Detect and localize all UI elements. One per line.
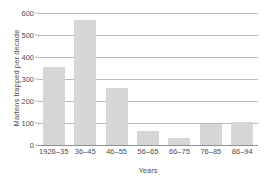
y-tick-label: 600 xyxy=(21,9,34,18)
x-tick-label: 76–85 xyxy=(200,147,221,156)
bar xyxy=(106,88,128,145)
y-tick-label: 300 xyxy=(21,75,34,84)
y-tick-label: 400 xyxy=(21,53,34,62)
x-tick-label: 66–75 xyxy=(169,147,190,156)
x-axis-tick-labels: 1926–3536–4546–5556–6566–7576–8586–94 xyxy=(38,147,258,159)
y-tick-label: 500 xyxy=(21,31,34,40)
bar-chart: Martens trapped per decade 0100200300400… xyxy=(0,0,264,184)
bar-series xyxy=(38,13,258,145)
x-tick-label: 56–65 xyxy=(138,147,159,156)
bar xyxy=(168,138,190,145)
bar xyxy=(137,131,159,145)
x-axis-title: Years xyxy=(38,166,258,175)
x-tick-label: 1926–35 xyxy=(39,147,68,156)
bar xyxy=(74,20,96,145)
bar xyxy=(231,122,253,145)
x-tick-label: 36–45 xyxy=(75,147,96,156)
y-tick-label: 100 xyxy=(21,119,34,128)
y-tick-label: 0 xyxy=(30,141,34,150)
plot-area: 0100200300400500600 xyxy=(38,13,258,145)
axis-line-zero xyxy=(38,145,258,146)
x-tick-label: 86–94 xyxy=(232,147,253,156)
y-tick-label: 200 xyxy=(21,97,34,106)
x-tick-label: 46–55 xyxy=(106,147,127,156)
bar xyxy=(43,67,65,145)
bar xyxy=(200,124,222,145)
